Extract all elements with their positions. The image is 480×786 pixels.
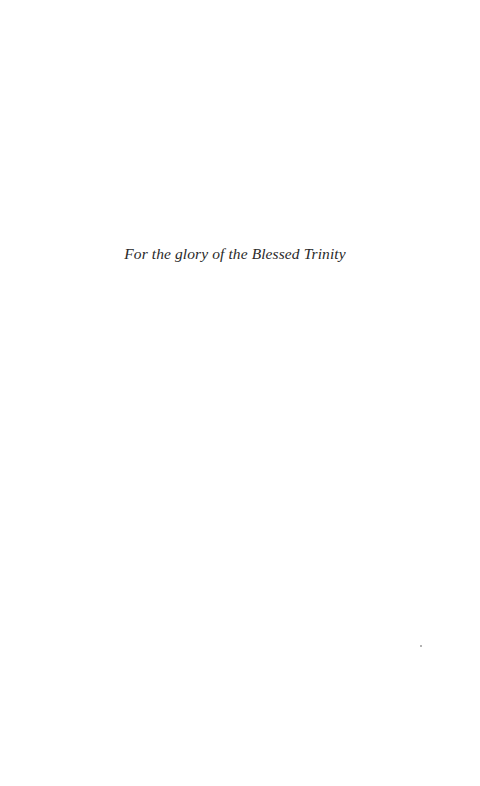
scan-speck — [420, 645, 422, 647]
book-page: For the glory of the Blessed Trinity — [0, 0, 480, 786]
dedication-text: For the glory of the Blessed Trinity — [0, 245, 470, 263]
